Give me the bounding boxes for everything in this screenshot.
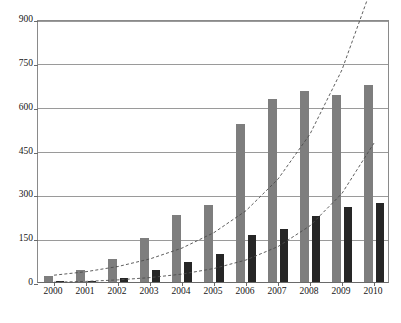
x-axis-label-2009: 2009 xyxy=(325,287,357,307)
y-axis-label: 450 xyxy=(0,147,33,157)
y-tick-0 xyxy=(34,284,38,285)
trendline-black xyxy=(54,143,374,282)
y-axis-label: 600 xyxy=(0,103,33,113)
y-axis-label: 0 xyxy=(0,278,33,288)
x-axis-label-2002: 2002 xyxy=(101,287,133,307)
y-axis-label: 150 xyxy=(0,234,33,244)
x-axis-label-2005: 2005 xyxy=(197,287,229,307)
plot-area xyxy=(37,20,389,283)
trendline-group xyxy=(38,21,390,284)
x-axis-label-2001: 2001 xyxy=(69,287,101,307)
x-axis-label-group: 2000200120022003200420052006200720082009… xyxy=(37,287,389,307)
x-axis-label-2000: 2000 xyxy=(37,287,69,307)
x-axis-label-2006: 2006 xyxy=(229,287,261,307)
x-axis-label-2004: 2004 xyxy=(165,287,197,307)
trendline-gray xyxy=(54,0,374,275)
y-axis-label: 750 xyxy=(0,59,33,69)
x-axis-label-2003: 2003 xyxy=(133,287,165,307)
y-axis-label: 300 xyxy=(0,190,33,200)
x-axis-label-2007: 2007 xyxy=(261,287,293,307)
y-axis-label: 900 xyxy=(0,15,33,25)
bar-chart: 0150300450600750900 20002001200220032004… xyxy=(0,0,401,323)
x-axis-label-2010: 2010 xyxy=(357,287,389,307)
x-axis-label-2008: 2008 xyxy=(293,287,325,307)
